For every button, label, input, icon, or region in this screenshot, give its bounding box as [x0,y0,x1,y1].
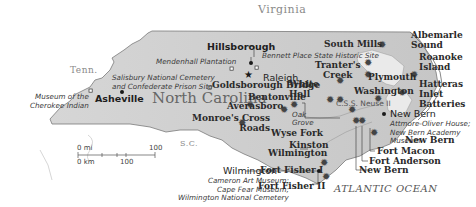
site-label-bennett: Bennett Place State Historic Site [262,52,379,59]
site-square-mendenhall [230,67,233,70]
battle-label-monroes-cross-roads: Monroe's Cross Roads [192,114,270,134]
battle-label-averasboro: Averasboro [227,102,283,111]
battle-label-new-bern: New Bern [405,136,454,145]
city-dot-hillsborough [249,61,253,65]
scale-mi-max: 100 [149,145,162,152]
scale-km-mid: 100 [120,159,133,166]
battle-label-goldsborough: Goldsborough Bridge [212,81,320,90]
battle-marker-icon: ✹ [370,127,378,138]
site-square-bennett [255,66,258,69]
site-square-cherokee [89,89,92,92]
battle-label-tranters-creek: Tranter's Creek [315,61,361,81]
site-label-mendenhall: Mendenhall Plantation [156,58,236,65]
city-label-new-bern: New Bern [390,109,436,119]
site-label-oak-grove: Oak Grove [292,111,314,128]
city-label-asheville: Asheville [95,94,144,104]
region-label-south-carolina: S.C. [180,140,198,148]
battle-label-hatteras: Hatteras Inlet Batteries [419,80,465,110]
scale-km-label: 0 km [77,159,95,166]
battle-marker-icon: ✹ [352,115,360,126]
battle-label-wilmington: Wilmington [268,149,327,158]
battle-label-roanoke: Roanoke Island [419,53,463,73]
capital-star-icon: ★ [244,69,253,80]
city-dot-new-bern [382,112,386,116]
battle-label-new-bern-2: New Bern [359,166,408,175]
nc-civil-war-map: ★ ✹ ✹ ✹ ✹ ✹ ✹ ✹ ✹ ✹ ✹ ✹ ✹ ✹ ✹ ✹ ✹ ✹ ✹ [0,0,476,207]
battle-label-albemarle: Albemarle Sound [411,31,463,51]
region-label-virginia: Virginia [258,4,306,15]
battle-label-plymouth: Plymouth [368,73,416,82]
battle-label-washington: Washington [354,87,414,96]
site-label-cherokee: Museum of the Cherokee Indian [30,92,89,110]
site-label-salisbury: Salisbury National Cemetery and Confeder… [112,73,215,91]
ocean-label: ATLANTIC OCEAN [334,184,438,194]
scale-mi-label: 0 mi [77,145,92,152]
region-label-tennessee: Tenn. [70,66,98,75]
ship-label-css-neuse: C.S.S. Neuse II [336,100,391,108]
battle-marker-icon: ✹ [326,94,334,105]
battle-label-fort-fisher-2: Fort Fisher II [258,182,325,191]
battle-label-wyse-fork: Wyse Fork [271,129,323,138]
battle-label-fort-fisher-1: Fort Fisher I [260,166,323,175]
battle-label-fort-macon: Fort Macon [377,147,435,156]
battle-label-south-mills: South Mills [324,40,382,49]
